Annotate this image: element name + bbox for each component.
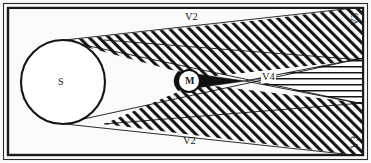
occluder-label: M [185,76,194,86]
lit-lower-label: V2 [183,136,196,147]
penumbra-upper-label: V3 [350,13,361,26]
penumbra-lower-label: V3 [350,136,361,149]
lit-upper-label: V2 [185,12,198,23]
antumbra-label: V4 [261,72,276,83]
source-label: S [58,77,64,87]
shadow-geometry-figure: S M V2 V2 V3 V3 V4 [0,0,371,163]
